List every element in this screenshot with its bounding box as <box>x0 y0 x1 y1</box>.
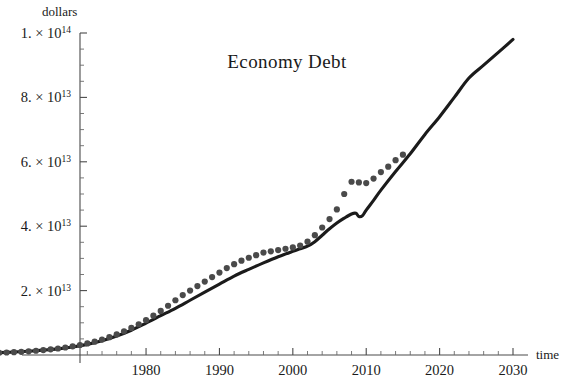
data-point <box>290 244 296 250</box>
data-point <box>224 265 230 271</box>
y-axis-tick-labels: 2. × 10134. × 10136. × 10138. × 10131. ×… <box>21 25 72 299</box>
data-point <box>216 269 222 275</box>
data-point <box>392 157 398 163</box>
data-point <box>114 331 120 337</box>
y-tick-label: 2. × 1013 <box>21 283 72 299</box>
data-point <box>297 242 303 248</box>
data-point <box>48 346 54 352</box>
x-tick-label: 2000 <box>278 362 307 378</box>
data-point <box>158 308 164 314</box>
y-tick-label: 4. × 1013 <box>21 218 72 234</box>
data-point <box>319 224 325 230</box>
y-tick-label: 8. × 1013 <box>21 89 72 105</box>
x-tick-label: 2010 <box>352 362 381 378</box>
data-point <box>106 334 112 340</box>
data-point <box>231 261 237 267</box>
data-point <box>238 258 244 264</box>
data-point <box>385 164 391 170</box>
data-point <box>180 292 186 298</box>
data-point <box>172 297 178 303</box>
x-tick-label: 2020 <box>425 362 454 378</box>
data-point <box>26 348 32 354</box>
data-point <box>334 206 340 212</box>
x-axis-label: time <box>536 347 559 362</box>
data-point <box>84 340 90 346</box>
data-point <box>70 343 76 349</box>
data-point <box>268 248 274 254</box>
data-point <box>260 250 266 256</box>
data-point <box>400 152 406 158</box>
x-tick-label: 2030 <box>499 362 528 378</box>
data-point <box>143 317 149 323</box>
data-point <box>348 179 354 185</box>
data-point <box>0 350 2 356</box>
economy-debt-chart: 198019902000201020202030 2. × 10134. × 1… <box>0 0 570 385</box>
x-axis-tick-labels: 198019902000201020202030 <box>132 362 528 378</box>
x-axis-major-ticks <box>146 348 513 355</box>
data-point <box>282 246 288 252</box>
data-point <box>128 325 134 331</box>
data-point <box>77 342 83 348</box>
data-point <box>165 303 171 309</box>
model-curve-path <box>0 39 513 354</box>
x-tick-label: 1990 <box>205 362 234 378</box>
data-point <box>33 348 39 354</box>
data-point <box>4 349 10 355</box>
chart-container: 198019902000201020202030 2. × 10134. × 1… <box>0 0 570 385</box>
y-tick-label: 6. × 1013 <box>21 154 72 170</box>
chart-title: Economy Debt <box>227 51 347 72</box>
data-point <box>194 283 200 289</box>
data-point <box>275 247 281 253</box>
y-axis-minor-ticks <box>80 49 84 339</box>
data-point <box>62 344 68 350</box>
data-point <box>363 180 369 186</box>
actual-data-dots <box>0 152 406 358</box>
data-point <box>92 339 98 345</box>
data-point <box>378 169 384 175</box>
data-point <box>341 191 347 197</box>
data-point <box>121 328 127 334</box>
data-point <box>209 274 215 280</box>
y-axis-label: dollars <box>42 4 77 19</box>
data-point <box>304 239 310 245</box>
data-point <box>312 232 318 238</box>
x-tick-label: 1980 <box>132 362 161 378</box>
data-point <box>356 179 362 185</box>
axes-layer <box>22 33 528 363</box>
data-point <box>18 349 24 355</box>
y-axis-major-ticks <box>80 33 87 291</box>
data-point <box>246 255 252 261</box>
data-point <box>370 175 376 181</box>
data-point <box>55 345 61 351</box>
data-point <box>40 347 46 353</box>
data-point <box>150 313 156 319</box>
data-point <box>253 252 259 258</box>
data-point <box>136 321 142 327</box>
data-point <box>11 349 17 355</box>
data-point <box>187 288 193 294</box>
data-point <box>326 216 332 222</box>
data-point <box>99 336 105 342</box>
y-tick-label: 1. × 1014 <box>21 25 72 41</box>
data-point <box>202 278 208 284</box>
